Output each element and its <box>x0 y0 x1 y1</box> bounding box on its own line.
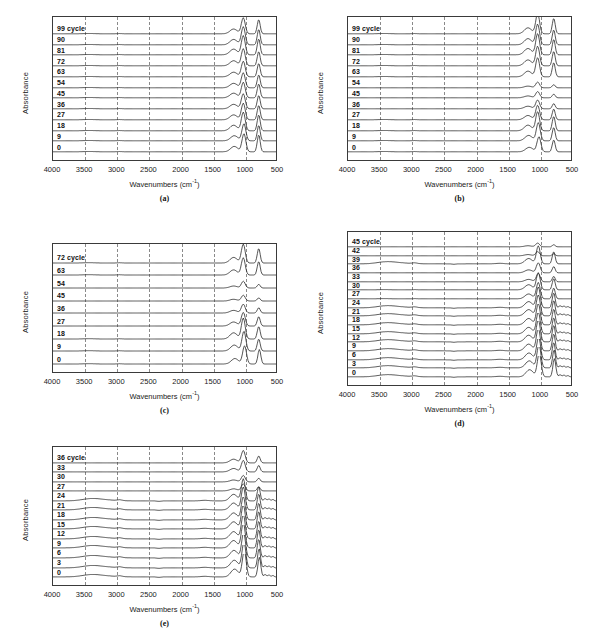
x-tick-1500: 1500 <box>204 165 221 174</box>
trace-label: 0 <box>352 369 356 377</box>
x-tick-3000: 3000 <box>108 377 125 386</box>
x-tick-2000: 2000 <box>172 377 189 386</box>
x-axis-ticks: 4000350030002500200015001000500 <box>52 165 277 177</box>
trace-label: 0 <box>57 356 61 364</box>
trace-label: 0 <box>57 144 61 152</box>
x-tick-3500: 3500 <box>76 165 93 174</box>
plot-frame-b: 99 cycle90817263544536271890 <box>347 16 572 161</box>
x-axis-ticks: 4000350030002500200015001000500 <box>347 390 572 402</box>
x-tick-4000: 4000 <box>44 590 61 599</box>
x-tick-2000: 2000 <box>467 165 484 174</box>
y-axis-label: Absorbance <box>18 16 32 169</box>
y-axis-label: Absorbance <box>18 243 32 381</box>
x-tick-1500: 1500 <box>499 165 516 174</box>
x-tick-500: 500 <box>566 390 579 399</box>
plot-area-e: Absorbance36 cycle3330272421181512963040… <box>16 438 285 630</box>
plot-area-a: Absorbance99 cycle9081726354453627189040… <box>16 8 285 205</box>
x-tick-500: 500 <box>566 165 579 174</box>
trace-label: 0 <box>57 569 61 577</box>
x-tick-2500: 2500 <box>140 165 157 174</box>
x-tick-4000: 4000 <box>339 165 356 174</box>
x-axis-title-text: Wavenumbers (cm <box>424 180 487 189</box>
x-tick-4000: 4000 <box>339 390 356 399</box>
x-tick-1000: 1000 <box>532 165 549 174</box>
x-axis-title: Wavenumbers (cm-1) <box>347 178 572 189</box>
plot-frame-d: 45 cycle42393633302724211815129630 <box>347 231 572 386</box>
x-axis-title: Wavenumbers (cm-1) <box>347 403 572 414</box>
plot-area-d: Absorbance45 cycle4239363330272421181512… <box>311 223 580 430</box>
x-axis-title-paren: ) <box>197 605 200 614</box>
x-tick-3500: 3500 <box>371 165 388 174</box>
plot-frame-c: 72 cycle63544536271890 <box>52 243 277 373</box>
x-tick-3500: 3500 <box>76 377 93 386</box>
panel-caption-d: (d) <box>347 419 572 428</box>
x-tick-500: 500 <box>271 377 284 386</box>
x-tick-2000: 2000 <box>172 165 189 174</box>
panel-caption-a: (a) <box>52 194 277 203</box>
x-axis-ticks: 4000350030002500200015001000500 <box>347 165 572 177</box>
x-axis-title-paren: ) <box>197 392 200 401</box>
x-tick-3500: 3500 <box>76 590 93 599</box>
x-axis-ticks: 4000350030002500200015001000500 <box>52 590 277 602</box>
panel-c: Absorbance72 cycle6354453627189040003500… <box>16 235 285 417</box>
x-tick-1500: 1500 <box>204 377 221 386</box>
x-tick-1000: 1000 <box>237 165 254 174</box>
panel-caption-c: (c) <box>52 406 277 415</box>
x-tick-2500: 2500 <box>140 377 157 386</box>
x-tick-2000: 2000 <box>172 590 189 599</box>
x-axis-title-paren: ) <box>492 180 495 189</box>
panel-e: Absorbance36 cycle3330272421181512963040… <box>16 438 285 630</box>
x-tick-4000: 4000 <box>44 377 61 386</box>
x-tick-1000: 1000 <box>532 390 549 399</box>
x-tick-1000: 1000 <box>237 377 254 386</box>
y-axis-label: Absorbance <box>313 16 327 169</box>
y-axis-label: Absorbance <box>313 231 327 394</box>
x-tick-4000: 4000 <box>44 165 61 174</box>
x-tick-1500: 1500 <box>499 390 516 399</box>
x-axis-title: Wavenumbers (cm-1) <box>52 390 277 401</box>
x-tick-3500: 3500 <box>371 390 388 399</box>
trace-label: 0 <box>352 144 356 152</box>
x-axis-ticks: 4000350030002500200015001000500 <box>52 377 277 389</box>
plot-area-b: Absorbance99 cycle9081726354453627189040… <box>311 8 580 205</box>
plot-frame-a: 99 cycle90817263544536271890 <box>52 16 277 161</box>
panel-caption-b: (b) <box>347 194 572 203</box>
x-tick-3000: 3000 <box>108 165 125 174</box>
x-axis-title-text: Wavenumbers (cm <box>129 180 192 189</box>
x-tick-2500: 2500 <box>140 590 157 599</box>
x-tick-500: 500 <box>271 165 284 174</box>
x-tick-2500: 2500 <box>435 390 452 399</box>
panel-caption-e: (e) <box>52 619 277 628</box>
x-tick-1500: 1500 <box>204 590 221 599</box>
x-tick-500: 500 <box>271 590 284 599</box>
y-axis-label: Absorbance <box>18 446 32 594</box>
x-tick-3000: 3000 <box>403 165 420 174</box>
x-tick-1000: 1000 <box>237 590 254 599</box>
x-axis-title-paren: ) <box>492 405 495 414</box>
x-axis-title-text: Wavenumbers (cm <box>129 392 192 401</box>
x-axis-title: Wavenumbers (cm-1) <box>52 603 277 614</box>
panel-d: Absorbance45 cycle4239363330272421181512… <box>311 223 580 430</box>
x-axis-title-paren: ) <box>197 180 200 189</box>
panel-a: Absorbance99 cycle9081726354453627189040… <box>16 8 285 205</box>
x-axis-title-text: Wavenumbers (cm <box>129 605 192 614</box>
x-axis-title: Wavenumbers (cm-1) <box>52 178 277 189</box>
x-tick-3000: 3000 <box>403 390 420 399</box>
x-tick-2000: 2000 <box>467 390 484 399</box>
x-tick-3000: 3000 <box>108 590 125 599</box>
x-tick-2500: 2500 <box>435 165 452 174</box>
x-axis-title-text: Wavenumbers (cm <box>424 405 487 414</box>
panel-b: Absorbance99 cycle9081726354453627189040… <box>311 8 580 205</box>
plot-area-c: Absorbance72 cycle6354453627189040003500… <box>16 235 285 417</box>
plot-frame-e: 36 cycle33302724211815129630 <box>52 446 277 586</box>
